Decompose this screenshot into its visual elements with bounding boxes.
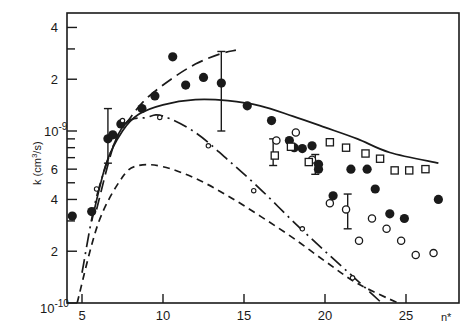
open-circle-marker xyxy=(342,206,349,213)
small-open-circle-marker xyxy=(158,115,162,119)
curves xyxy=(77,50,438,303)
chart-canvas: 10-1024610-924 510152025 n* k (cm3/s) xyxy=(0,0,467,327)
small-open-circle-marker xyxy=(252,188,256,192)
open-circle-marker xyxy=(383,225,390,232)
small-open-circle-marker xyxy=(300,227,304,231)
dash-dot-curve xyxy=(82,115,382,303)
open-circle-marker xyxy=(355,237,362,244)
filled-circle-marker xyxy=(243,101,252,110)
filled-circle-marker xyxy=(298,144,307,153)
y-tick-label: 2 xyxy=(51,72,58,87)
x-axis-label: n* xyxy=(441,311,452,323)
filled-circle-marker xyxy=(363,165,372,174)
filled-circle-marker xyxy=(267,116,276,125)
y-tick-label: 4 xyxy=(51,192,58,207)
open-square-marker xyxy=(362,150,369,157)
filled-circle-marker xyxy=(199,73,208,82)
open-square-marker xyxy=(391,167,398,174)
y-axis-label: k (cm3/s) xyxy=(30,141,43,185)
filled-circle-marker xyxy=(181,80,190,89)
open-circle-marker xyxy=(368,215,375,222)
x-axis: 510152025 xyxy=(78,294,413,323)
open-circle-marker xyxy=(412,251,419,258)
filled-circle-marker xyxy=(137,104,146,113)
y-tick-label: 6 xyxy=(51,162,58,177)
small-open-circle-marker xyxy=(120,118,124,122)
open-circle-marker xyxy=(273,137,280,144)
open-square-marker xyxy=(406,167,413,174)
y-tick-label: 10-9 xyxy=(44,121,68,139)
y-axis: 10-1024610-924 xyxy=(40,20,77,316)
open-square-marker xyxy=(422,166,429,173)
open-square-marker xyxy=(342,144,349,151)
plot-frame xyxy=(67,13,459,303)
open-circle-marker xyxy=(326,200,333,207)
open-square-marker xyxy=(376,155,383,162)
filled-circle-marker xyxy=(108,130,117,139)
open-square-marker xyxy=(326,139,333,146)
filled-circle-marker xyxy=(68,212,77,221)
open-circle-marker xyxy=(292,129,299,136)
filled-circle-marker xyxy=(434,195,443,204)
y-tick-label: 10-10 xyxy=(40,298,69,316)
open-circle-marker xyxy=(430,250,437,257)
y-tick-label: 4 xyxy=(51,20,58,35)
open-square-marker xyxy=(305,158,312,165)
filled-circle-marker xyxy=(150,91,159,100)
error-bars xyxy=(104,51,352,228)
filled-circle-marker xyxy=(400,214,409,223)
filled-circle-marker xyxy=(346,165,355,174)
filled-circle-marker xyxy=(329,191,338,200)
small-open-circle-marker xyxy=(206,144,210,148)
filled-circle-marker xyxy=(87,207,96,216)
filled-circle-marker xyxy=(217,78,226,87)
data-points xyxy=(68,52,443,280)
open-square-marker xyxy=(271,152,278,159)
filled-circle-marker xyxy=(168,52,177,61)
x-tick-label: 25 xyxy=(399,308,413,323)
small-open-circle-marker xyxy=(350,276,354,280)
small-open-circle-marker xyxy=(94,187,98,191)
filled-circle-marker xyxy=(371,184,380,193)
open-circle-marker xyxy=(398,237,405,244)
x-tick-label: 10 xyxy=(156,308,170,323)
filled-circle-marker xyxy=(307,141,316,150)
short-dash-curve xyxy=(77,165,398,303)
open-square-marker xyxy=(287,143,294,150)
filled-circle-marker xyxy=(385,209,394,218)
x-tick-label: 5 xyxy=(78,308,85,323)
x-tick-label: 20 xyxy=(318,308,332,323)
y-tick-label: 2 xyxy=(51,244,58,259)
x-tick-label: 15 xyxy=(237,308,251,323)
